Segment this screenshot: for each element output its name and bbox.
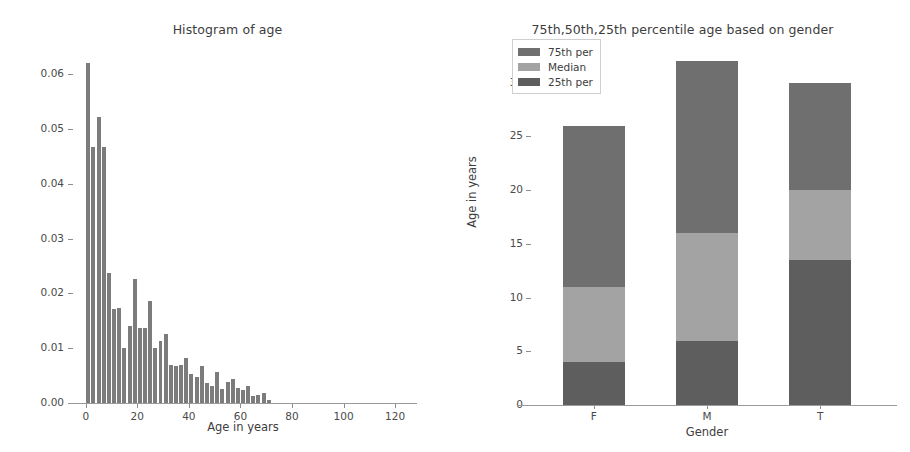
percentile-panel: 75th,50th,25th percentile age based on g… <box>455 0 910 452</box>
histogram-bar <box>241 390 245 403</box>
histogram-y-tickmark <box>68 239 73 240</box>
percentile-y-tick: 25 <box>489 129 523 141</box>
histogram-bars <box>78 55 408 403</box>
percentile-x-tickmark <box>594 406 595 409</box>
percentile-x-axis-line <box>517 405 897 406</box>
histogram-bar <box>220 389 224 403</box>
histogram-y-tick: 0.05 <box>20 122 64 134</box>
percentile-x-tick: F <box>574 410 614 422</box>
percentile-segment-75th <box>789 83 851 190</box>
histogram-bar <box>210 386 214 403</box>
histogram-bar <box>133 279 137 403</box>
histogram-bar <box>179 365 183 403</box>
legend-item-75th: 75th per <box>518 44 593 59</box>
percentile-y-tick: 20 <box>489 183 523 195</box>
histogram-bar <box>215 372 219 403</box>
histogram-bar <box>246 386 250 403</box>
histogram-bar <box>200 366 204 403</box>
histogram-bar <box>138 328 142 403</box>
histogram-bar <box>122 348 126 403</box>
histogram-bar <box>184 358 188 403</box>
histogram-title: Histogram of age <box>0 22 455 37</box>
histogram-bar <box>117 308 121 403</box>
histogram-bar <box>97 117 101 403</box>
percentile-segment-25th <box>563 362 625 405</box>
percentile-segment-median <box>563 287 625 362</box>
histogram-x-tickmark <box>344 404 345 408</box>
percentile-segment-median <box>789 190 851 260</box>
histogram-bar <box>262 393 266 403</box>
histogram-bar <box>91 147 95 403</box>
legend-label-25th-per: 25th per <box>548 76 593 88</box>
percentile-segment-25th <box>789 260 851 405</box>
histogram-bar <box>189 374 193 403</box>
legend-label-75th-per: 75th per <box>548 46 593 58</box>
legend-label-median: Median <box>548 61 586 73</box>
histogram-y-tick: 0.04 <box>20 177 64 189</box>
percentile-y-tickmark <box>526 351 531 352</box>
histogram-bar <box>112 309 116 403</box>
histogram-panel: Histogram of age 0.000.010.020.030.040.0… <box>0 0 455 452</box>
histogram-bar <box>226 382 230 403</box>
percentile-y-tickmark <box>526 190 531 191</box>
percentile-x-tick: T <box>800 410 840 422</box>
legend-swatch-median <box>518 63 540 71</box>
percentile-segment-75th <box>563 126 625 287</box>
histogram-bar <box>205 383 209 403</box>
percentile-x-axis-label: Gender <box>537 425 877 439</box>
histogram-y-tick: 0.00 <box>20 396 64 408</box>
legend-item-median: Median <box>518 59 593 74</box>
histogram-x-tickmark <box>292 404 293 408</box>
histogram-y-tick: 0.06 <box>20 67 64 79</box>
histogram-bar <box>267 400 271 403</box>
percentile-x-tickmark <box>820 406 821 409</box>
percentile-y-tickmark <box>526 136 531 137</box>
histogram-bar <box>195 377 199 403</box>
percentile-bars <box>537 45 877 405</box>
legend-swatch-75th-per <box>518 48 540 56</box>
histogram-bar <box>231 379 235 403</box>
histogram-bar <box>102 147 106 403</box>
histogram-x-tickmark <box>240 404 241 408</box>
histogram-bar <box>148 301 152 403</box>
histogram-y-tickmark <box>68 129 73 130</box>
histogram-bar <box>159 341 163 403</box>
legend-swatch-25th-per <box>518 78 540 86</box>
percentile-segment-75th <box>676 61 738 233</box>
percentile-y-tick: 15 <box>489 237 523 249</box>
percentile-stacked-bar <box>563 126 625 405</box>
histogram-y-tickmark <box>68 293 73 294</box>
percentile-y-tickmark <box>526 244 531 245</box>
histogram-bar <box>174 366 178 403</box>
percentile-y-tick: 5 <box>489 344 523 356</box>
histogram-x-axis-line <box>69 403 417 404</box>
histogram-bar <box>164 334 168 403</box>
percentile-stacked-bar <box>676 61 738 405</box>
histogram-x-tickmark <box>189 404 190 408</box>
percentile-x-tick: M <box>687 410 727 422</box>
histogram-bar <box>251 396 255 403</box>
legend: 75th per Median 25th per <box>512 39 601 94</box>
percentile-segment-median <box>676 233 738 340</box>
histogram-bar <box>107 273 111 403</box>
histogram-bar <box>86 63 90 403</box>
percentile-chart-title: 75th,50th,25th percentile age based on g… <box>455 22 910 37</box>
percentile-y-tick: 10 <box>489 291 523 303</box>
histogram-y-tickmark <box>68 74 73 75</box>
histogram-bar <box>143 328 147 403</box>
percentile-y-axis-label: Age in years <box>465 142 479 242</box>
histogram-x-axis-label: Age in years <box>78 420 408 434</box>
percentile-stacked-bar <box>789 83 851 405</box>
histogram-y-tick: 0.01 <box>20 341 64 353</box>
histogram-bar <box>153 348 157 403</box>
figure-canvas: Histogram of age 0.000.010.020.030.040.0… <box>0 0 910 452</box>
percentile-y-tickmark <box>526 298 531 299</box>
histogram-y-tickmark <box>68 348 73 349</box>
percentile-y-tick: 0 <box>489 398 523 410</box>
histogram-x-tickmark <box>395 404 396 408</box>
percentile-segment-25th <box>676 341 738 405</box>
legend-item-25th: 25th per <box>518 74 593 89</box>
histogram-x-tickmark <box>137 404 138 408</box>
histogram-y-tick: 0.02 <box>20 286 64 298</box>
histogram-y-tickmark <box>68 184 73 185</box>
